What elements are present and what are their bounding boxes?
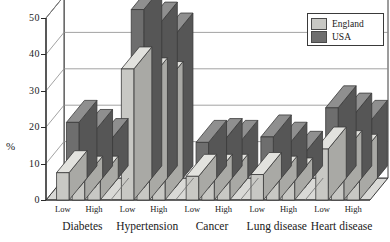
level-label-low: Low — [111, 204, 145, 214]
level-label-low: Low — [305, 204, 339, 214]
legend-label-england: England — [332, 19, 364, 29]
y-tick-label: 40 — [18, 48, 40, 59]
level-label-high: High — [336, 204, 370, 214]
y-tick-mark — [41, 18, 46, 19]
level-label-high: High — [142, 204, 176, 214]
y-tick-label: 30 — [18, 85, 40, 96]
legend: England USA — [307, 13, 384, 46]
y-tick-mark — [41, 54, 46, 55]
y-tick-mark — [41, 91, 46, 92]
category-label: Heart disease — [282, 220, 390, 232]
level-label-high: High — [77, 204, 111, 214]
level-label-high: High — [271, 204, 305, 214]
legend-swatch-usa — [311, 31, 327, 43]
legend-item-england: England — [311, 17, 380, 30]
y-axis-title: % — [6, 140, 15, 152]
y-tick-label: 0 — [18, 194, 40, 205]
legend-label-usa: USA — [332, 32, 351, 42]
legend-item-usa: USA — [311, 30, 380, 43]
level-label-low: Low — [46, 204, 80, 214]
y-tick-mark — [41, 127, 46, 128]
bar-chart: % 01020304050 LowHighLowHighLowHighLowHi… — [0, 0, 390, 242]
level-label-high: High — [207, 204, 241, 214]
legend-swatch-england — [311, 18, 327, 30]
y-tick-mark — [41, 164, 46, 165]
level-label-low: Low — [175, 204, 209, 214]
y-tick-label: 20 — [18, 121, 40, 132]
y-tick-mark — [41, 200, 46, 201]
y-tick-label: 10 — [18, 158, 40, 169]
level-label-low: Low — [240, 204, 274, 214]
y-tick-label: 50 — [18, 12, 40, 23]
